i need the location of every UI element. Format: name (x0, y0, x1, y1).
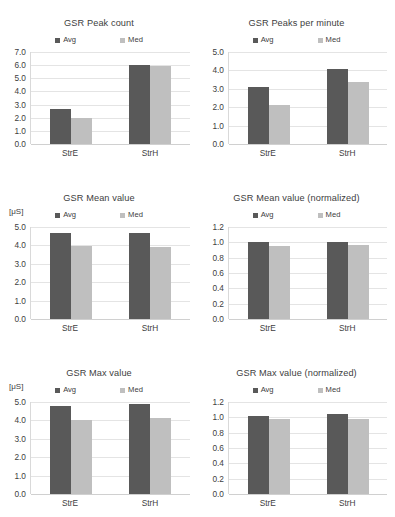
legend-label: Avg (261, 386, 274, 394)
y-axis-tick-label: 1.2 (212, 398, 224, 406)
bar-med-strh[interactable] (348, 245, 369, 319)
bar-med-strh[interactable] (150, 247, 171, 319)
y-axis-tick-label: 0.6 (212, 444, 224, 452)
legend-label: Med (128, 36, 143, 44)
chart-legend: AvgMed (0, 209, 198, 221)
legend-label: Avg (63, 386, 76, 394)
chart-title: GSR Max value (0, 350, 198, 379)
x-axis-tick-label: StrH (308, 148, 388, 158)
y-axis-tick-label: 3.0 (14, 101, 26, 109)
bar-group-strh (308, 227, 387, 319)
bar-med-strh[interactable] (348, 82, 369, 144)
legend-item-avg[interactable]: Avg (253, 36, 274, 44)
bar-med-stre[interactable] (71, 118, 92, 144)
x-axis-tick-label: StrE (30, 498, 110, 508)
bar-avg-strh[interactable] (327, 414, 348, 495)
bar-med-strh[interactable] (150, 66, 171, 144)
bar-med-strh[interactable] (150, 418, 171, 494)
plot-canvas (228, 227, 387, 319)
legend-swatch-icon (55, 213, 60, 218)
legend-item-avg[interactable]: Avg (253, 386, 274, 394)
chart-title: GSR Max value (normalized) (198, 350, 395, 379)
legend-label: Med (326, 36, 341, 44)
bar-avg-stre[interactable] (50, 109, 71, 144)
bar-med-stre[interactable] (71, 420, 92, 494)
bar-med-stre[interactable] (269, 246, 290, 319)
x-axis-tick-label: StrH (110, 323, 190, 333)
y-axis-tick-label: 7.0 (14, 48, 26, 56)
legend-swatch-icon (318, 213, 323, 218)
legend-item-med[interactable]: Med (120, 211, 143, 219)
bar-container (229, 402, 387, 494)
y-axis-tick-label: 0.0 (14, 140, 26, 148)
bar-avg-stre[interactable] (248, 87, 269, 144)
y-axis-tick-label: 0.8 (212, 429, 224, 437)
legend-item-med[interactable]: Med (318, 36, 341, 44)
y-axis-tick-label: 3.0 (14, 260, 26, 268)
bar-avg-strh[interactable] (129, 65, 150, 144)
bar-avg-strh[interactable] (327, 242, 348, 319)
gridline (31, 494, 190, 495)
x-axis-tick-label: StrH (308, 323, 388, 333)
legend-item-avg[interactable]: Avg (55, 211, 76, 219)
x-axis: StrEStrH (228, 323, 387, 333)
legend-item-avg[interactable]: Avg (55, 36, 76, 44)
plot-area: 5.04.03.02.01.00.0StrEStrH (0, 402, 198, 494)
y-axis-tick-label: 3.0 (212, 85, 224, 93)
chart-grid: GSR Peak countAvgMed7.06.05.04.03.02.01.… (0, 0, 395, 517)
legend-label: Med (128, 211, 143, 219)
y-axis-tick-label: 0.8 (212, 254, 224, 262)
x-axis-tick-label: StrE (30, 148, 110, 158)
bar-container (31, 227, 190, 319)
bar-avg-stre[interactable] (50, 233, 71, 319)
bar-med-strh[interactable] (348, 419, 369, 494)
bar-avg-stre[interactable] (248, 242, 269, 319)
y-axis-tick-label: 5.0 (14, 74, 26, 82)
y-axis-tick-label: 4.0 (212, 66, 224, 74)
y-axis-tick-label: 5.0 (14, 223, 26, 231)
x-axis: StrEStrH (30, 148, 190, 158)
legend-item-med[interactable]: Med (318, 211, 341, 219)
bar-avg-strh[interactable] (327, 69, 348, 144)
bar-avg-stre[interactable] (50, 406, 71, 494)
bar-avg-strh[interactable] (129, 233, 150, 319)
legend-swatch-icon (253, 213, 258, 218)
bar-med-stre[interactable] (269, 105, 290, 144)
x-axis-tick-label: StrE (228, 148, 308, 158)
legend-label: Med (326, 386, 341, 394)
legend-item-med[interactable]: Med (120, 386, 143, 394)
y-axis-tick-label: 2.0 (212, 103, 224, 111)
bar-container (229, 227, 387, 319)
legend-label: Avg (63, 211, 76, 219)
plot-area: 5.04.03.02.01.00.0StrEStrH (198, 52, 395, 144)
bar-med-stre[interactable] (71, 246, 92, 319)
legend-item-med[interactable]: Med (318, 386, 341, 394)
legend-swatch-icon (55, 38, 60, 43)
legend-item-avg[interactable]: Avg (55, 386, 76, 394)
bar-avg-stre[interactable] (248, 416, 269, 494)
bar-group-stre (229, 402, 308, 494)
y-axis: 1.21.00.80.60.40.20.0 (198, 402, 228, 494)
y-axis: 5.04.03.02.01.00.0 (0, 227, 30, 319)
bar-group-stre (31, 227, 111, 319)
y-axis-tick-label: 1.0 (212, 122, 224, 130)
y-axis-tick-label: 2.0 (14, 114, 26, 122)
bar-avg-strh[interactable] (129, 404, 150, 494)
plot-area: 1.21.00.80.60.40.20.0StrEStrH (198, 227, 395, 319)
chart-legend: AvgMed (198, 384, 395, 396)
legend-item-med[interactable]: Med (120, 36, 143, 44)
x-axis-tick-label: StrH (308, 498, 388, 508)
plot-canvas (30, 402, 190, 494)
y-axis-tick-label: 1.2 (212, 223, 224, 231)
bar-group-strh (111, 227, 191, 319)
bar-med-stre[interactable] (269, 419, 290, 494)
chart-gsr-mean-value: GSR Mean valueAvgMed[μS]5.04.03.02.01.00… (0, 175, 198, 350)
bar-container (229, 52, 387, 144)
y-axis-tick-label: 0.2 (212, 475, 224, 483)
y-axis-tick-label: 0.4 (212, 459, 224, 467)
y-axis-unit-label: [μS] (9, 207, 23, 216)
bar-group-stre (229, 227, 308, 319)
chart-gsr-max-value: GSR Max valueAvgMed[μS]5.04.03.02.01.00.… (0, 350, 198, 517)
legend-item-avg[interactable]: Avg (253, 211, 274, 219)
y-axis-tick-label: 4.0 (14, 87, 26, 95)
